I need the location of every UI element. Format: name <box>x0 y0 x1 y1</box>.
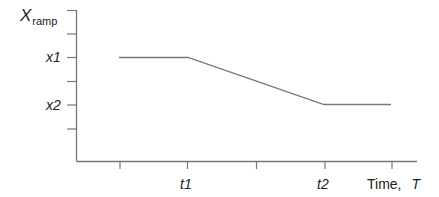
y-tick-label-x1: x1 <box>46 50 61 64</box>
y-axis-label: Xramp <box>20 7 56 24</box>
y-axis-label-main: X <box>20 6 31 25</box>
x-axis-label-symbol: T <box>411 176 420 192</box>
ramp-diagram <box>0 0 439 197</box>
x-axis-label: Time, T <box>367 177 420 191</box>
x-tick-label-t2: t2 <box>317 177 329 191</box>
x-axis-ticks <box>120 162 392 170</box>
ramp-line <box>119 58 391 105</box>
x-tick-label-t1: t1 <box>180 177 192 191</box>
y-axis-label-subscript: ramp <box>32 15 57 27</box>
y-axis-ticks <box>67 11 77 130</box>
x-axis-label-text: Time, <box>367 176 401 192</box>
y-tick-label-x2: x2 <box>46 98 61 112</box>
